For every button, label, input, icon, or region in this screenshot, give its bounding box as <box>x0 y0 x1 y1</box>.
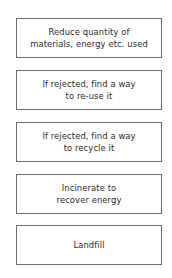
step-landfill-box: Landfill <box>16 225 162 265</box>
step-reuse-box: If rejected, find a way to re-use it <box>16 70 162 110</box>
step-recycle-box: If rejected, find a way to recycle it <box>16 122 162 162</box>
step-incinerate-line-2: recover energy <box>57 194 122 206</box>
step-reduce-line-2: materials, energy etc. used <box>30 38 148 50</box>
step-landfill-line-1: Landfill <box>73 239 104 251</box>
step-reuse-line-1: If rejected, find a way <box>42 78 135 90</box>
step-incinerate-box: Incinerate to recover energy <box>16 174 162 214</box>
step-recycle-line-1: If rejected, find a way <box>42 130 135 142</box>
step-reduce-line-1: Reduce quantity of <box>48 26 129 38</box>
step-reduce-box: Reduce quantity of materials, energy etc… <box>16 18 162 58</box>
step-incinerate-line-1: Incinerate to <box>62 182 117 194</box>
step-reuse-line-2: to re-use it <box>66 90 113 102</box>
step-recycle-line-2: to recycle it <box>64 142 115 154</box>
